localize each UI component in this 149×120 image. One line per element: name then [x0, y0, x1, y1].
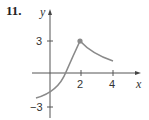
- right-branch-curve: [80, 41, 113, 61]
- y-tick-label-neg3: −3: [30, 101, 43, 113]
- y-tick-label-3: 3: [36, 35, 42, 47]
- function-graph: 2 4 3 −3 y x: [0, 0, 149, 120]
- y-axis-label: y: [39, 5, 46, 19]
- x-axis-arrow-icon: [135, 71, 141, 75]
- x-tick-label-2: 2: [77, 78, 83, 90]
- left-branch-curve: [36, 41, 80, 98]
- y-axis-arrow-icon: [48, 9, 52, 15]
- x-axis-label: x: [135, 77, 142, 91]
- filled-point-2-3: [77, 38, 82, 43]
- x-tick-label-4: 4: [109, 78, 115, 90]
